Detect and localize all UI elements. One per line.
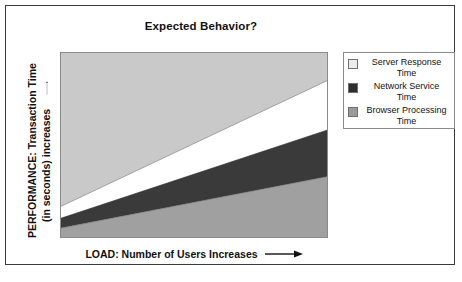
chart-title: Expected Behavior? [6, 20, 396, 32]
y-axis-label-group: PERFORMANCE: Transaction Time (in second… [6, 46, 58, 246]
legend-item-network-service-time: Network Service Time [348, 81, 450, 102]
legend-swatch-server-response-time [348, 59, 358, 69]
legend-swatch-browser-processing-time [348, 107, 358, 117]
legend-label-browser-processing-time: Browser Processing Time [363, 105, 450, 126]
figure-frame: Expected Behavior? PERFORMANCE: Transact… [5, 5, 455, 265]
legend-label-server-response-time: Server Response Time [363, 57, 450, 78]
x-axis-label: LOAD: Number of Users Increases [85, 248, 257, 260]
legend: Server Response Time Network Service Tim… [343, 52, 455, 129]
plot-area [60, 52, 328, 238]
legend-item-browser-processing-time: Browser Processing Time [348, 105, 450, 126]
legend-item-server-response-time: Server Response Time [348, 57, 450, 78]
y-axis-label-line-1: PERFORMANCE: Transaction Time [26, 63, 38, 238]
legend-label-network-service-time: Network Service Time [363, 81, 450, 102]
right-arrow-icon [265, 249, 303, 259]
up-arrow-icon [46, 54, 48, 122]
x-axis-label-group: LOAD: Number of Users Increases [60, 244, 328, 264]
y-axis-label-line-2: (in seconds) increases [40, 109, 52, 222]
legend-swatch-network-service-time [348, 83, 358, 93]
